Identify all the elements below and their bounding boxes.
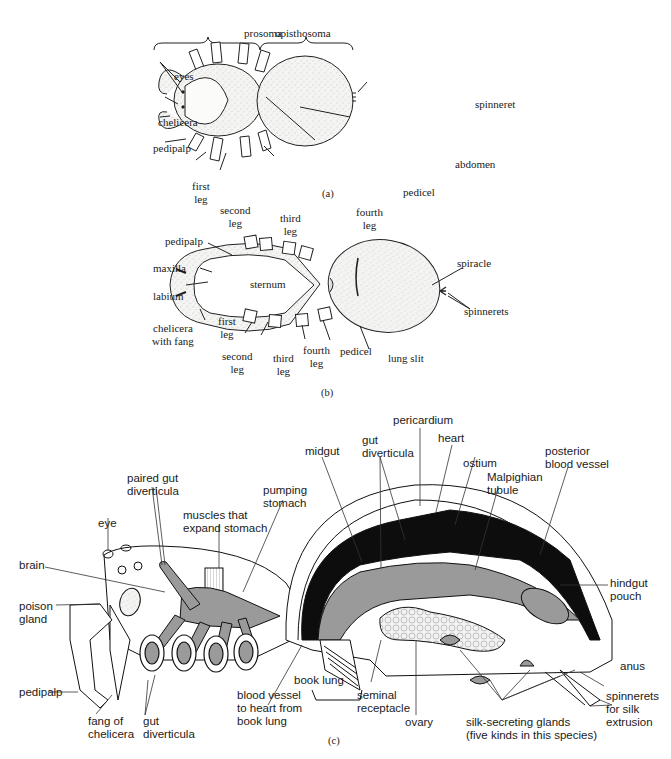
label-pumping-stomach: pumping stomach [263, 484, 307, 510]
label-spiracle: spiracle [457, 257, 491, 270]
label-brain: brain [19, 559, 45, 572]
label-pedipalp-b: pedipalp [165, 235, 203, 248]
label-pedicel-b: pedicel [340, 345, 372, 358]
label-fang-of-chelicera: fang of chelicera [88, 715, 134, 741]
label-gut-diverticula-top: gut diverticula [362, 434, 414, 460]
pedipalp-shape [70, 604, 112, 708]
label-fourth-leg-b: fourth leg [303, 344, 330, 370]
label-first-leg: first leg [192, 180, 210, 206]
panel-b-ventral-view [170, 231, 470, 349]
label-maxilla: maxilla [153, 262, 186, 275]
label-posterior-blood-vessel: posterior blood vessel [545, 445, 609, 471]
label-muscles-expand-stomach: muscles that expand stomach [183, 509, 267, 535]
label-hindgut-pouch: hindgut pouch [610, 577, 648, 603]
label-second-leg-b: second leg [222, 350, 253, 376]
label-lung-slit: lung slit [388, 352, 424, 365]
label-paired-gut-diverticula: paired gut diverticula [127, 472, 179, 498]
label-anus: anus [620, 660, 645, 673]
label-pericardium: pericardium [393, 414, 453, 427]
label-chelicera: chelicera [158, 116, 198, 129]
abdomen-ventral [321, 231, 447, 341]
label-labium: labium [153, 290, 184, 303]
label-seminal-receptacle: seminal receptacle [357, 689, 410, 715]
label-sternum: sternum [250, 278, 285, 291]
label-malpighian-tubule: Malpighian tubule [487, 471, 543, 497]
label-eye: eye [98, 517, 117, 530]
label-midgut: midgut [305, 445, 340, 458]
label-poison-gland: poison gland [19, 600, 53, 626]
label-ostium: ostium [463, 457, 497, 470]
label-silk-glands: silk-secreting glands (five kinds in thi… [466, 716, 597, 742]
label-second-leg: second leg [220, 204, 251, 230]
label-third-leg-b: third leg [273, 352, 294, 378]
label-fourth-leg: fourth leg [356, 206, 383, 232]
label-chelicera-with-fang: chelicera with fang [152, 322, 194, 348]
label-pedipalp: pedipalp [153, 142, 191, 155]
label-spinnerets-b: spinnerets [464, 305, 509, 318]
label-pedicel: pedicel [403, 186, 435, 199]
label-blood-vessel-book-lung: blood vessel to heart from book lung [237, 689, 302, 728]
label-gut-diverticula-bottom: gut diverticula [143, 715, 195, 741]
caption-c: (c) [328, 735, 340, 746]
label-third-leg: third leg [280, 212, 301, 238]
label-abdomen: abdomen [455, 158, 495, 171]
label-ovary: ovary [405, 716, 433, 729]
label-eyes: eyes [174, 70, 194, 83]
label-pedipalp-c: pedipalp [19, 686, 62, 699]
caption-a: (a) [322, 188, 334, 199]
abdomen-shape [257, 56, 353, 146]
spider-anatomy-diagram [0, 0, 671, 759]
label-spinneret: spinneret [475, 98, 515, 111]
caption-b: (b) [321, 387, 333, 398]
label-first-leg-b: first leg [218, 315, 236, 341]
label-heart: heart [438, 432, 464, 445]
label-book-lung: book lung [294, 674, 344, 687]
label-spinnerets-silk: spinnerets for silk extrusion [606, 690, 659, 729]
label-opisthosoma: opisthosoma [275, 27, 331, 40]
